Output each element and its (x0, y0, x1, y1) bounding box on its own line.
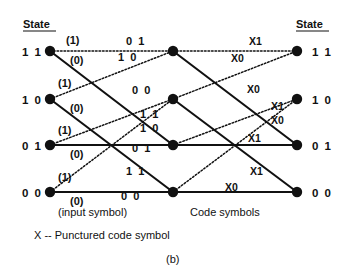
left-state-label-11: 1 1 (22, 46, 43, 58)
left-state-label-10: 1 0 (22, 94, 43, 106)
code-label-s1-10-lower: 1 0 (140, 122, 160, 134)
input-symbol-axis-label: (input symbol) (58, 206, 127, 218)
code-label-s2-X0-bottom: X0 (225, 181, 238, 193)
figure-canvas: State State 1 1 1 0 0 1 0 0 1 1 1 0 0 1 … (0, 0, 346, 270)
code-label-s1-11: 1 1 (140, 108, 160, 120)
right-state-label-00: 0 0 (312, 187, 333, 199)
edge-11-to-01-stage2 (173, 51, 297, 145)
node-left-01 (45, 140, 55, 150)
code-label-s1-00: 0 0 (132, 84, 152, 96)
node-right-00 (292, 187, 302, 197)
right-state-label-01: 0 1 (312, 140, 333, 152)
node-right-01 (292, 140, 302, 150)
node-right-11 (292, 46, 302, 56)
right-state-label-11: 1 1 (312, 46, 333, 58)
node-left-00 (45, 187, 55, 197)
code-label-s2-X0-mid: X0 (247, 83, 260, 95)
code-label-s2-X1-lower: X1 (248, 132, 261, 144)
right-state-header-label: State (296, 18, 323, 30)
input-label-11-zero: (0) (70, 54, 84, 66)
code-label-s2-X0: X0 (231, 52, 244, 64)
edge-10-to-11-stage1 (50, 51, 173, 99)
left-state-header: State (23, 18, 56, 31)
code-label-s1-10: 1 0 (118, 51, 138, 63)
node-left-11 (45, 46, 55, 56)
code-label-s1-01-top: 0 1 (126, 35, 146, 47)
code-label-s2-X1-mid: X1 (271, 100, 284, 112)
right-state-label-10: 1 0 (312, 94, 333, 106)
input-label-10-one: (1) (58, 77, 72, 89)
left-state-label-00: 0 0 (22, 187, 43, 199)
input-label-10-zero: (0) (70, 102, 84, 114)
input-label-01-zero: (0) (70, 148, 84, 160)
left-state-label-01: 0 1 (22, 140, 43, 152)
code-label-s2-X1-bottom: X1 (250, 165, 263, 177)
node-middle-11 (168, 46, 178, 56)
figure-label: (b) (166, 253, 179, 265)
code-label-s1-01-lower: 0 1 (132, 142, 152, 154)
punctured-symbol-legend: X -- Punctured code symbol (34, 229, 170, 241)
node-right-10 (292, 94, 302, 104)
code-label-s1-11-lower: 1 1 (126, 165, 146, 177)
code-symbols-axis-label: Code symbols (190, 206, 260, 218)
left-state-header-label: State (23, 18, 50, 30)
input-label-00-one: (1) (58, 171, 72, 183)
input-label-11-one: (1) (66, 34, 80, 46)
node-middle-00 (168, 187, 178, 197)
trellis-diagram: State State 1 1 1 0 0 1 0 0 1 1 1 0 0 1 … (0, 0, 346, 270)
right-state-header: State (296, 18, 329, 31)
code-label-s2-X0-lower: X0 (271, 114, 284, 126)
node-middle-10 (168, 94, 178, 104)
node-left-10 (45, 94, 55, 104)
code-label-s1-00-lower: 0 0 (121, 190, 141, 202)
node-middle-01 (168, 140, 178, 150)
input-label-01-one: (1) (58, 124, 72, 136)
code-label-s2-X1-top: X1 (249, 35, 262, 47)
